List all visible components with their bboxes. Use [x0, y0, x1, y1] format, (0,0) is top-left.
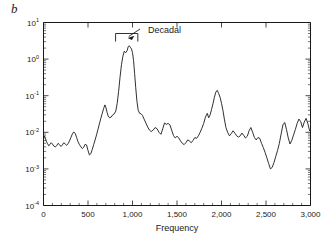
decadal-leader-line [129, 29, 140, 37]
x-axis-tick-label: 2,500 [256, 210, 277, 219]
figure-panel-b: b 10110010-110-210-310-405001,0001,5002,… [0, 0, 330, 244]
y-axis-tick-label: 10-2 [25, 127, 39, 137]
x-axis-title: Frequency [156, 223, 199, 233]
y-axis-tick-label: 100 [27, 54, 39, 64]
x-axis-tick-label: 2,000 [211, 210, 232, 219]
y-axis-tick-label: 10-3 [25, 164, 39, 174]
decadal-bracket [116, 34, 138, 42]
plot-frame [44, 23, 311, 206]
spectral-power-chart: 10110010-110-210-310-405001,0001,5002,00… [0, 0, 330, 244]
x-axis-tick-label: 1,500 [167, 210, 188, 219]
y-axis-tick-label: 101 [27, 17, 39, 27]
x-axis-tick-label: 0 [41, 210, 46, 219]
y-axis-tick-label: 10-4 [25, 200, 39, 210]
data-series-line [44, 46, 309, 169]
x-axis-tick-label: 3,000 [300, 210, 321, 219]
decadal-annotation-label: Decadal [148, 25, 181, 35]
x-axis-tick-label: 500 [81, 210, 95, 219]
y-axis-tick-label: 10-1 [25, 90, 39, 100]
x-axis-tick-label: 1,000 [122, 210, 143, 219]
